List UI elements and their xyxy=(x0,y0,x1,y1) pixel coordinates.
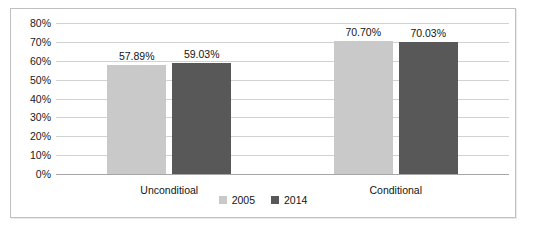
legend-item-2014[interactable]: 2014 xyxy=(271,195,307,206)
x-axis-category-label: Unconditioal xyxy=(140,185,198,196)
chart-legend: 20052014 xyxy=(11,195,515,206)
x-axis-category-label: Conditional xyxy=(369,185,422,196)
y-axis-tick-label: 0% xyxy=(7,169,51,180)
y-axis-tick-label: 30% xyxy=(7,112,51,123)
legend-item-2005[interactable]: 2005 xyxy=(219,195,255,206)
y-axis-tick-label: 50% xyxy=(7,74,51,85)
bar-value-label: 59.03% xyxy=(184,49,220,60)
bar-2005-conditional[interactable] xyxy=(334,41,393,174)
bar-2014-conditional[interactable] xyxy=(399,42,458,174)
y-axis-tick-label: 40% xyxy=(7,93,51,104)
bar-value-label: 57.89% xyxy=(119,51,155,62)
y-axis-tick-label: 60% xyxy=(7,56,51,67)
y-axis-tick-label: 70% xyxy=(7,37,51,48)
legend-swatch-icon xyxy=(271,196,279,204)
y-axis-tick-label: 20% xyxy=(7,131,51,142)
y-axis-tick-label: 10% xyxy=(7,150,51,161)
bar-value-label: 70.70% xyxy=(345,27,381,38)
bar-value-label: 70.03% xyxy=(410,28,446,39)
legend-label: 2014 xyxy=(284,195,307,206)
chart-frame: 80%70%60%50%40%30%20%10%0%57.89%59.03%70… xyxy=(10,8,516,218)
gridline xyxy=(56,23,509,24)
x-axis-line xyxy=(56,174,509,175)
bar-2014-unconditioal[interactable] xyxy=(172,63,231,174)
plot-area: 80%70%60%50%40%30%20%10%0%57.89%59.03%70… xyxy=(56,23,509,174)
legend-swatch-icon xyxy=(219,196,227,204)
legend-label: 2005 xyxy=(232,195,255,206)
bar-2005-unconditioal[interactable] xyxy=(107,65,166,174)
y-axis-tick-label: 80% xyxy=(7,18,51,29)
